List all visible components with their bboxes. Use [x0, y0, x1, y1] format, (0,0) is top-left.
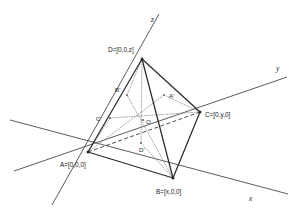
vertex-markers-group: [87, 58, 202, 180]
edge-a-b: [88, 152, 173, 178]
vertex-marker-d: [141, 58, 144, 61]
point-marker-o: [142, 119, 144, 121]
point-marker-bprime: [126, 94, 128, 96]
vertex-label-c: C=[0,y,0]: [205, 111, 231, 119]
point-label-d-prime: D': [139, 146, 145, 153]
vertex-label-a: A=[0,0,0]: [60, 161, 86, 169]
vertex-marker-a: [87, 151, 90, 154]
tetrahedron-diagram: A=[0,0,0] B=[x,0,0] C=[0,y,0] D=[0,0,z] …: [0, 0, 301, 218]
construction-line-bprime-d: [127, 59, 142, 95]
axes-group: [10, 14, 288, 205]
construction-lines-group: [88, 59, 200, 178]
vertex-marker-b: [172, 177, 175, 180]
diagram-canvas: A=[0,0,0] B=[x,0,0] C=[0,y,0] D=[0,0,z] …: [0, 0, 301, 218]
point-label-o: O: [146, 118, 151, 125]
vertex-label-d: D=[0,0,z]: [108, 46, 134, 54]
axis-label-y: y: [275, 64, 280, 73]
point-label-a-prime: A': [169, 92, 174, 99]
axis-label-x: x: [248, 194, 253, 203]
axis-line-x: [10, 120, 288, 194]
axis-line-z: [52, 14, 159, 205]
edge-c-d: [142, 59, 200, 112]
point-marker-dprime: [140, 142, 142, 144]
edge-a-d: [88, 59, 142, 152]
point-label-c-prime: C': [96, 115, 102, 122]
point-label-b-prime: B': [115, 86, 120, 93]
vertex-marker-c: [199, 111, 202, 114]
axis-label-z: z: [150, 15, 154, 24]
vertex-label-b: B=[x,0,0]: [156, 188, 182, 196]
point-marker-aprime: [163, 94, 165, 96]
solid-edges-group: [88, 59, 200, 178]
edge-b-c: [173, 112, 200, 178]
construction-line-d-dprime: [141, 59, 142, 143]
point-marker-cprime: [109, 117, 111, 119]
